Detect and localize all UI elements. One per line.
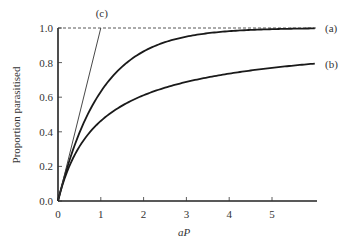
y-axis-title: Proportion parasitised xyxy=(10,66,22,163)
series-layer: (a)(b)(c) xyxy=(58,7,338,201)
ticks: 0123450.00.20.40.60.81.0 xyxy=(39,22,275,220)
x-tick-label: 1 xyxy=(98,208,104,220)
series-c-line xyxy=(58,28,101,201)
x-tick-label: 4 xyxy=(226,208,232,220)
series-b-label: (b) xyxy=(325,58,338,71)
series-c-label: (c) xyxy=(96,7,109,20)
series-a-label: (a) xyxy=(325,22,338,35)
y-tick-label: 1.0 xyxy=(39,22,53,34)
x-tick-label: 0 xyxy=(55,208,61,220)
y-tick-label: 0.4 xyxy=(39,126,53,138)
series-a-curve xyxy=(58,28,315,201)
x-axis-title: aP xyxy=(178,226,191,238)
y-tick-label: 0.8 xyxy=(39,57,53,69)
y-tick-label: 0.6 xyxy=(39,91,53,103)
y-tick-label: 0.2 xyxy=(39,160,53,172)
x-tick-label: 3 xyxy=(184,208,190,220)
chart: 0123450.00.20.40.60.81.0 (a)(b)(c) Propo… xyxy=(0,0,349,248)
y-tick-label: 0.0 xyxy=(39,195,53,207)
x-tick-label: 5 xyxy=(269,208,275,220)
axes xyxy=(58,28,317,201)
x-tick-label: 2 xyxy=(141,208,147,220)
series-b-curve xyxy=(58,64,315,201)
